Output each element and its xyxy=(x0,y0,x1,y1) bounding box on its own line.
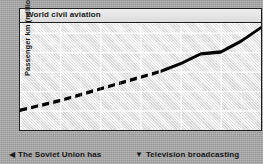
plot-graphics xyxy=(20,23,261,130)
nav-next-article[interactable]: ▼ Television broadcasting xyxy=(135,150,239,159)
nav-previous-article[interactable]: ◀ The Soviet Union has xyxy=(9,150,101,159)
chart-title-bar: World civil aviation xyxy=(19,8,262,22)
y-axis-title: Passenger km (millions) xyxy=(23,0,32,76)
chart-title: World civil aviation xyxy=(26,10,101,19)
gridlines xyxy=(20,23,261,130)
screenshot-root: World civil aviation 020406080100 194819… xyxy=(0,0,263,164)
plot-area: 020406080100 194819501952195419561958196… xyxy=(19,22,262,131)
triangle-left-icon: ◀ xyxy=(9,151,15,159)
nav-previous-label: The Soviet Union has xyxy=(18,150,101,159)
triangle-down-icon: ▼ xyxy=(135,151,143,159)
nav-next-label: Television broadcasting xyxy=(146,150,239,159)
bottom-nav-bar: ◀ The Soviet Union has ▼ Television broa… xyxy=(0,147,263,164)
chart-figure: World civil aviation 020406080100 194819… xyxy=(19,8,262,139)
